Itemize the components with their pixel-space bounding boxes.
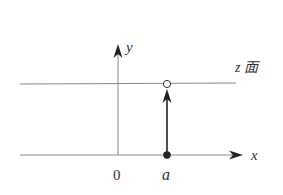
point-a-label: a bbox=[162, 166, 170, 183]
complex-plane-diagram: y x 0 a z 面 bbox=[0, 0, 283, 195]
z-plane-line bbox=[20, 83, 236, 84]
origin-label: 0 bbox=[113, 167, 121, 183]
filled-point-icon bbox=[163, 151, 171, 159]
open-point-icon bbox=[163, 80, 170, 87]
z-plane-label: z 面 bbox=[234, 60, 260, 75]
y-axis-label: y bbox=[124, 39, 133, 55]
x-axis-label: x bbox=[250, 147, 258, 163]
